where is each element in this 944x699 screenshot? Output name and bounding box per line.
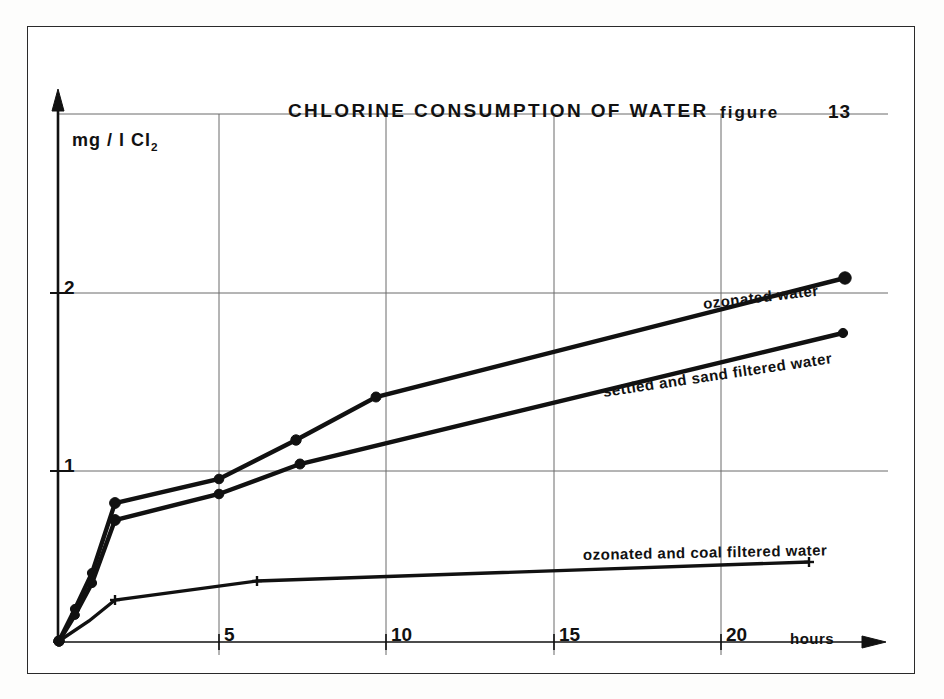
y-axis-arrow xyxy=(52,89,64,111)
chart-title: CHLORINE CONSUMPTION OF WATER xyxy=(288,100,709,122)
y-axis-label: mg / l Cl2 xyxy=(72,130,159,153)
xtick-label-15: 15 xyxy=(559,624,580,646)
ytick-label-2: 2 xyxy=(64,277,75,299)
series-line-ozonated-water xyxy=(59,278,845,641)
series-ozonated-coal-filtered-water xyxy=(54,557,814,646)
series-ozonated-water xyxy=(54,272,851,646)
figure-number: 13 xyxy=(828,101,851,123)
figure-word-label: figure xyxy=(720,103,779,123)
series-markers-ozonated-water xyxy=(54,272,851,646)
ytick-label-1: 1 xyxy=(64,455,75,477)
xtick-label-5: 5 xyxy=(224,624,235,646)
chart-canvas xyxy=(28,27,914,673)
y-axis-label-text: mg / l Cl xyxy=(72,130,151,150)
figure-frame-border: CHLORINE CONSUMPTION OF WATER figure 13 … xyxy=(27,26,915,674)
scanned-figure-page: CHLORINE CONSUMPTION OF WATER figure 13 … xyxy=(0,0,944,699)
y-axis-label-subscript: 2 xyxy=(151,140,159,153)
xtick-label-20: 20 xyxy=(726,624,747,646)
series-markers-ozonated-coal-filtered-water xyxy=(54,557,814,646)
x-axis-arrow xyxy=(862,636,886,648)
xtick-label-10: 10 xyxy=(391,624,412,646)
x-axis-unit-label: hours xyxy=(790,630,834,647)
series-line-ozonated-coal-filtered-water xyxy=(59,562,809,641)
